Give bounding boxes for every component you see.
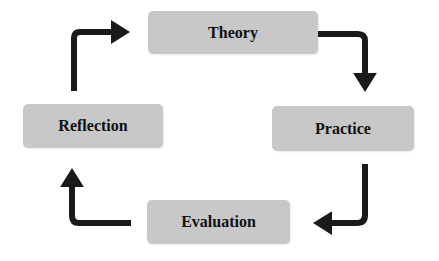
arrow-evaluation-to-reflection bbox=[72, 180, 131, 223]
node-practice: Practice bbox=[272, 106, 414, 151]
node-reflection: Reflection bbox=[23, 104, 163, 148]
learning-cycle-diagram: Theory Practice Evaluation Reflection bbox=[0, 0, 439, 261]
node-reflection-label: Reflection bbox=[58, 117, 127, 135]
arrow-practice-to-evaluation bbox=[325, 164, 365, 223]
node-evaluation: Evaluation bbox=[147, 200, 290, 244]
arrow-reflection-to-theory bbox=[74, 32, 118, 91]
node-practice-label: Practice bbox=[315, 120, 371, 138]
node-theory-label: Theory bbox=[208, 24, 258, 42]
node-evaluation-label: Evaluation bbox=[181, 213, 256, 231]
node-theory: Theory bbox=[148, 11, 318, 54]
